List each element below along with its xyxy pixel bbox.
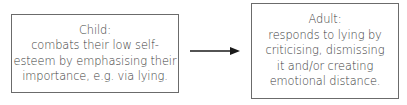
adult-node-text-line: criticising, dismissing xyxy=(266,43,385,59)
arrow-right-icon xyxy=(190,45,240,57)
child-node-text-line: importance, e.g. via lying. xyxy=(22,69,168,85)
adult-node: Adult: responds to lying by criticising,… xyxy=(251,3,399,99)
child-node-text-line: esteem by emphasising their xyxy=(14,54,177,70)
adult-node-text-line: it and/or creating xyxy=(277,59,373,75)
child-node-text-line: combats their low self- xyxy=(31,38,159,54)
adult-node-title: Adult: xyxy=(309,12,342,28)
adult-node-text-line: emotional distance. xyxy=(270,74,381,90)
adult-node-text-line: responds to lying by xyxy=(268,28,381,44)
child-node-title: Child: xyxy=(79,23,111,39)
child-node: Child: combats their low self- esteem by… xyxy=(11,14,179,93)
